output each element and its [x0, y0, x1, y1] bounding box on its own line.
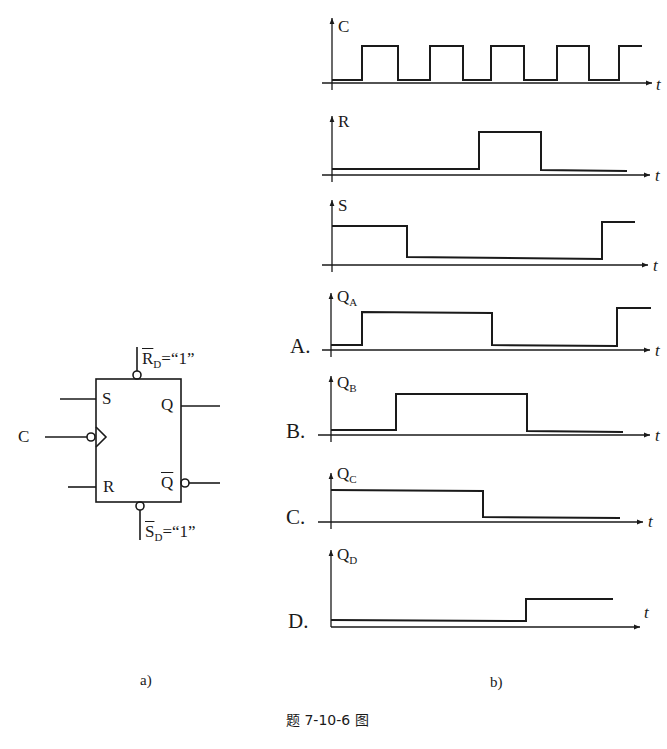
rd-label: RD=“1” [142, 350, 194, 367]
time-label-c: t [656, 76, 661, 93]
sd-label: SD=“1” [145, 523, 196, 540]
option-c-label: C. [286, 507, 305, 528]
figure-caption: 题 7-10-6 图 [286, 709, 369, 729]
subfigure-a-caption: a) [140, 672, 152, 689]
flip-flop-symbol [45, 347, 220, 540]
time-label-qd: t [644, 604, 649, 621]
time-label-qa: t [655, 342, 660, 359]
option-a-label: A. [290, 336, 310, 357]
time-label-qc: t [648, 513, 653, 530]
waveform-s [322, 200, 648, 272]
waveform-r [322, 116, 650, 182]
waveform-qd [331, 550, 640, 627]
signal-label-qb: QB [337, 374, 357, 391]
signal-label-qa: QA [337, 288, 357, 305]
waveform-qb [318, 376, 650, 442]
r-pin-label: R [103, 478, 114, 495]
q-pin-label: Q [161, 396, 173, 413]
waveform-qc [318, 473, 643, 529]
signal-label-qd: QD [337, 546, 357, 563]
sd-bubble-icon [136, 502, 144, 510]
signal-label-r: R [338, 113, 349, 130]
clock-label: C [18, 428, 29, 445]
time-label-r: t [655, 167, 660, 184]
signal-label-s: S [338, 197, 347, 214]
waveform-c [322, 18, 652, 90]
clock-edge-triangle-icon [96, 427, 106, 447]
signal-label-qc: QC [337, 465, 357, 482]
time-label-qb: t [655, 427, 660, 444]
subfigure-b-caption: b) [490, 674, 503, 691]
qbar-pin-label: Q [161, 474, 173, 491]
qbar-bubble-icon [181, 479, 189, 487]
time-label-s: t [653, 257, 658, 274]
s-pin-label: S [102, 390, 111, 407]
rd-bubble-icon [133, 371, 141, 379]
option-b-label: B. [286, 421, 305, 442]
option-d-label: D. [288, 611, 308, 632]
signal-label-c: C [338, 18, 349, 35]
diagram-canvas [0, 0, 667, 749]
waveform-qa [322, 293, 651, 357]
clock-bubble-icon [87, 433, 95, 441]
